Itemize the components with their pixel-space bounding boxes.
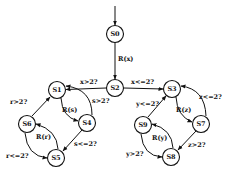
label-S9-S8: y>2?	[125, 150, 144, 158]
node-label-S4: S4	[82, 119, 92, 127]
label-S1-S4: R(s)	[62, 106, 77, 114]
label-S2-S3: x<=2?	[131, 78, 154, 86]
state-machine-diagram: R(x) x>2? x<=2? R(s) s>2? s<=2? R(r) r>2…	[0, 0, 228, 178]
node-label-S8: S8	[166, 153, 176, 161]
node-label-S2: S2	[110, 84, 119, 92]
node-S2: S2	[107, 80, 124, 97]
node-S6: S6	[19, 116, 36, 133]
edge-S6-S1	[32, 97, 50, 116]
label-S7-S3: z<=2?	[199, 93, 222, 101]
label-S4-S1: s>2?	[92, 97, 110, 105]
node-label-S5: S5	[51, 154, 61, 162]
label-S7-S8: z>2?	[188, 141, 206, 149]
node-label-S9: S9	[138, 121, 148, 129]
edge-S2-S1	[66, 88, 106, 90]
label-S3-S7: R(z)	[176, 106, 191, 114]
label-S4-S5: s<=2?	[74, 140, 97, 148]
node-S8: S8	[163, 149, 180, 166]
node-label-S1: S1	[52, 86, 61, 94]
node-S9: S9	[135, 117, 152, 134]
nodes: S0 S1 S2 S3 S4 S5 S6 S7	[19, 26, 210, 167]
node-S5: S5	[48, 150, 65, 167]
node-label-S3: S3	[167, 85, 177, 93]
label-S8-S9: R(y)	[152, 134, 167, 142]
node-label-S6: S6	[22, 120, 32, 128]
edge-S2-S3	[124, 88, 163, 89]
node-S1: S1	[49, 82, 66, 99]
label-S6-S5: r<=2?	[6, 152, 29, 160]
node-S0: S0	[107, 26, 124, 43]
node-S3: S3	[164, 81, 181, 98]
edge-labels: R(x) x>2? x<=2? R(s) s>2? s<=2? R(r) r>2…	[6, 55, 222, 160]
label-S9-S3: y<=2?	[135, 100, 159, 108]
node-S4: S4	[79, 115, 96, 132]
label-S0-S2: R(x)	[118, 55, 133, 63]
node-S7: S7	[193, 116, 210, 133]
label-S2-S1: x>2?	[80, 78, 98, 86]
node-label-S0: S0	[110, 30, 120, 38]
node-label-S7: S7	[196, 120, 205, 128]
label-S6-S1: r>2?	[10, 98, 27, 106]
label-S5-S6: R(r)	[36, 133, 51, 141]
